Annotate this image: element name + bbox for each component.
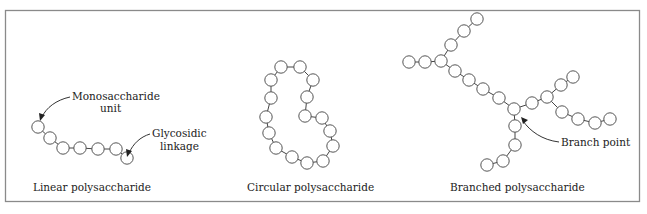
monosaccharide-unit xyxy=(419,56,431,68)
monosaccharide-unit xyxy=(477,83,489,95)
monosaccharide-unit xyxy=(481,159,493,171)
monosaccharide-unit xyxy=(589,117,601,129)
monosaccharide-unit xyxy=(497,155,509,167)
monosaccharide-unit xyxy=(92,143,104,155)
monosaccharide-unit xyxy=(327,140,339,152)
monosaccharide-unit xyxy=(263,127,275,139)
glycosidic-arrow xyxy=(129,134,150,153)
monosaccharide-label-line1: Monosaccharide xyxy=(72,90,160,102)
monosaccharide-unit xyxy=(604,113,616,125)
monosaccharide-unit xyxy=(74,142,86,154)
monosaccharide-unit xyxy=(265,92,277,104)
monosaccharide-unit xyxy=(265,74,277,86)
branch-point-label: Branch point xyxy=(561,136,631,148)
branch-point-arrow xyxy=(523,121,559,142)
monosaccharide-unit xyxy=(572,113,584,125)
glycosidic-label-line2: linkage xyxy=(160,140,199,152)
monosaccharide-unit xyxy=(541,91,553,103)
circular-polysaccharide xyxy=(260,61,339,169)
monosaccharide-unit xyxy=(301,91,313,103)
monosaccharide-unit xyxy=(286,151,298,163)
monosaccharide-unit xyxy=(458,25,470,37)
monosaccharide-unit xyxy=(508,103,520,115)
monosaccharide-unit xyxy=(471,13,483,25)
glycosidic-label-line1: Glycosidic xyxy=(152,127,207,139)
monosaccharide-unit xyxy=(44,132,56,144)
monosaccharide-unit xyxy=(556,106,568,118)
monosaccharide-unit xyxy=(567,71,579,83)
monosaccharide-unit xyxy=(324,125,336,137)
monosaccharide-unit xyxy=(555,79,567,91)
monosaccharide-arrow xyxy=(42,97,70,117)
monosaccharide-unit xyxy=(275,61,287,73)
monosaccharide-unit xyxy=(445,39,457,51)
branched-caption: Branched polysaccharide xyxy=(450,181,585,193)
monosaccharide-unit xyxy=(526,97,538,109)
monosaccharide-unit xyxy=(57,142,69,154)
monosaccharide-unit xyxy=(260,111,272,123)
polysaccharide-diagram: Linear polysaccharide Monosaccharide uni… xyxy=(0,0,647,214)
circular-caption: Circular polysaccharide xyxy=(247,181,374,193)
monosaccharide-arrowhead xyxy=(39,113,45,121)
monosaccharide-unit xyxy=(403,56,415,68)
monosaccharide-label-line2: unit xyxy=(100,102,122,114)
monosaccharide-unit xyxy=(509,139,521,151)
monosaccharide-unit xyxy=(110,143,122,155)
monosaccharide-unit xyxy=(307,74,319,86)
monosaccharide-unit xyxy=(270,142,282,154)
monosaccharide-unit xyxy=(509,120,521,132)
monosaccharide-unit xyxy=(316,112,328,124)
monosaccharide-unit xyxy=(299,110,311,122)
monosaccharide-unit xyxy=(463,74,475,86)
monosaccharide-unit xyxy=(301,157,313,169)
monosaccharide-unit xyxy=(317,155,329,167)
linear-polysaccharide xyxy=(32,121,133,164)
monosaccharide-unit xyxy=(294,61,306,73)
monosaccharide-unit xyxy=(32,121,44,133)
linear-caption: Linear polysaccharide xyxy=(33,181,151,193)
monosaccharide-unit xyxy=(449,65,461,77)
monosaccharide-unit xyxy=(435,55,447,67)
monosaccharide-unit xyxy=(493,92,505,104)
